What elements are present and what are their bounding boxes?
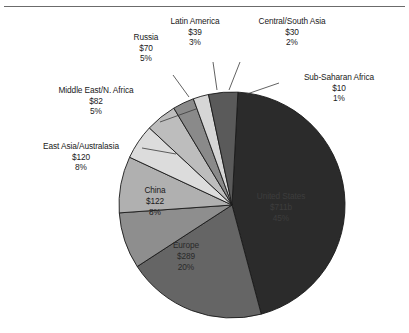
callout-label-russia: Russia $70 5% xyxy=(115,32,177,64)
inner-label-europe: Europe $289 20% xyxy=(155,240,217,273)
callout-name-russia: Russia xyxy=(115,32,177,43)
callout-name-central-south-asia: Central/South Asia xyxy=(240,16,344,27)
inner-percent-china: 8% xyxy=(124,207,186,218)
leader-line-sub-saharan-africa xyxy=(247,83,279,94)
callout-name-middle-east: Middle East/N. Africa xyxy=(36,85,156,96)
leader-line-russia xyxy=(173,75,189,97)
inner-percent-united-states: 45% xyxy=(243,213,319,224)
callout-percent-east-asia: 8% xyxy=(20,162,142,173)
callout-value-russia: $70 xyxy=(115,43,177,54)
callout-value-central-south-asia: $30 xyxy=(240,27,344,38)
inner-value-china: $122 xyxy=(124,196,186,207)
inner-name-europe: Europe xyxy=(155,240,217,251)
callout-label-sub-saharan-africa: Sub-Saharan Africa $10 1% xyxy=(284,72,394,104)
callout-name-sub-saharan-africa: Sub-Saharan Africa xyxy=(284,72,394,83)
callout-label-middle-east: Middle East/N. Africa $82 5% xyxy=(36,85,156,117)
inner-value-europe: $289 xyxy=(155,251,217,262)
inner-percent-europe: 20% xyxy=(155,262,217,273)
pie-chart-figure: Latin America $39 3% Central/South Asia … xyxy=(0,0,409,333)
callout-percent-central-south-asia: 2% xyxy=(240,37,344,48)
callout-value-east-asia: $120 xyxy=(20,152,142,163)
callout-percent-middle-east: 5% xyxy=(36,106,156,117)
leader-line-central-south-asia xyxy=(229,62,240,90)
callout-name-latin-america: Latin America xyxy=(152,16,238,27)
leader-line-latin-america xyxy=(213,62,217,90)
inner-label-united-states: United States $711b 45% xyxy=(243,191,319,224)
callout-label-east-asia: East Asia/Australasia $120 8% xyxy=(20,141,142,173)
callout-percent-sub-saharan-africa: 1% xyxy=(284,93,394,104)
inner-value-united-states: $711b xyxy=(243,202,319,213)
callout-name-east-asia: East Asia/Australasia xyxy=(20,141,142,152)
inner-name-china: China xyxy=(124,185,186,196)
inner-label-china: China $122 8% xyxy=(124,185,186,218)
callout-value-middle-east: $82 xyxy=(36,96,156,107)
callout-value-sub-saharan-africa: $10 xyxy=(284,83,394,94)
callout-percent-russia: 5% xyxy=(115,53,177,64)
inner-name-united-states: United States xyxy=(243,191,319,202)
callout-label-central-south-asia: Central/South Asia $30 2% xyxy=(240,16,344,48)
